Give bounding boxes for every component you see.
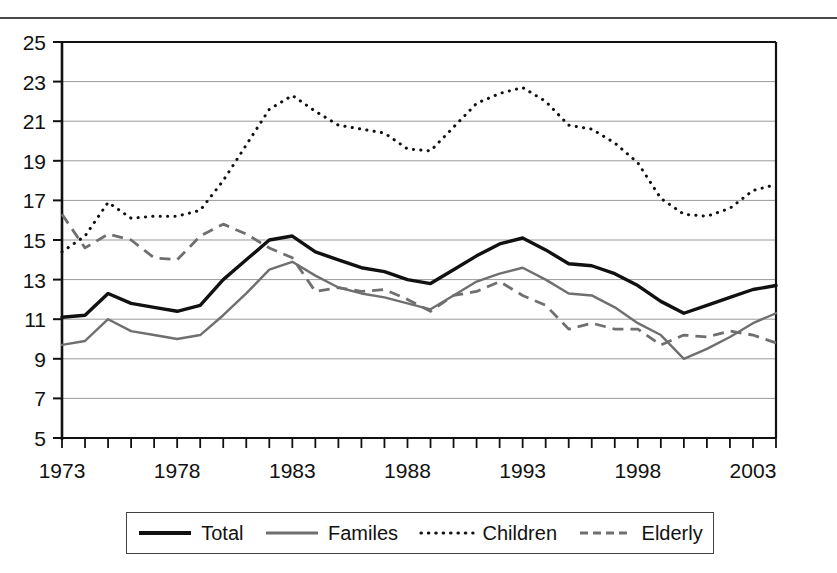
legend-swatch-familes — [264, 526, 320, 540]
y-axis-tick-label: 25 — [23, 31, 46, 54]
x-axis-labels-group: 1973197819831988199319982003 — [39, 459, 777, 482]
chart-legend: Total Familes Children Elderly — [126, 512, 714, 554]
y-axis-tick-label: 19 — [23, 150, 46, 173]
legend-item-familes: Familes — [264, 523, 398, 543]
x-axis-tick-label: 1973 — [39, 459, 86, 482]
y-axis-tick-label: 17 — [23, 189, 46, 212]
legend-label-total: Total — [201, 523, 243, 543]
x-axis-tick-label: 1983 — [269, 459, 316, 482]
plot-area: 5791113151719212325 19731978198319881993… — [0, 0, 837, 573]
data-series-group — [62, 88, 776, 359]
legend-item-children: Children — [419, 523, 557, 543]
y-axis-tick-label: 13 — [23, 269, 46, 292]
y-axis-tick-label: 5 — [34, 427, 46, 450]
legend-swatch-total — [137, 526, 193, 540]
line-chart-svg: 5791113151719212325 19731978198319881993… — [0, 0, 837, 500]
y-axis-tick-label: 9 — [34, 348, 46, 371]
x-axis-tick-label: 1978 — [154, 459, 201, 482]
x-axis-tick-label: 1993 — [499, 459, 546, 482]
legend-swatch-children — [419, 526, 475, 540]
x-axis-ticks-group — [62, 438, 776, 448]
y-axis-tick-label: 21 — [23, 110, 46, 133]
legend-item-elderly: Elderly — [578, 523, 703, 543]
legend-swatch-elderly — [578, 526, 634, 540]
legend-label-children: Children — [483, 523, 557, 543]
x-axis-tick-label: 2003 — [730, 459, 777, 482]
legend-label-elderly: Elderly — [642, 523, 703, 543]
y-axis-tick-label: 15 — [23, 229, 46, 252]
y-axis-tick-label: 7 — [34, 387, 46, 410]
y-axis-ticks-group — [53, 42, 62, 438]
x-axis-tick-label: 1998 — [614, 459, 661, 482]
chart-figure: 5791113151719212325 19731978198319881993… — [0, 0, 837, 573]
series-line-total — [62, 236, 776, 317]
y-axis-tick-label: 23 — [23, 71, 46, 94]
series-line-children — [62, 88, 776, 252]
x-axis-tick-label: 1988 — [384, 459, 431, 482]
y-axis-labels-group: 5791113151719212325 — [23, 31, 46, 450]
y-axis-tick-label: 11 — [24, 308, 46, 331]
legend-label-familes: Familes — [328, 523, 398, 543]
legend-item-total: Total — [137, 523, 243, 543]
plot-frame — [62, 42, 776, 440]
